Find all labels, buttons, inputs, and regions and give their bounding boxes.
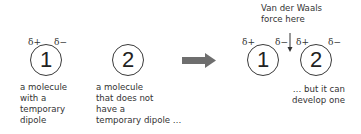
molecule-1-circle: 1 xyxy=(30,44,62,76)
molecule-1-caption: a molecule with a temporary dipole xyxy=(20,82,67,126)
delta-plus-label: δ+ xyxy=(242,37,255,47)
molecule-2-circle: 2 xyxy=(300,44,332,76)
delta-minus-label: δ− xyxy=(275,37,288,47)
van-der-waals-force-label: Van der Waals force here xyxy=(261,3,322,25)
molecule-2-circle: 2 xyxy=(112,44,144,76)
molecule-number: 2 xyxy=(310,47,322,73)
molecule-number: 2 xyxy=(122,47,134,73)
delta-minus-label: δ− xyxy=(328,37,341,47)
delta-minus-label: δ− xyxy=(54,37,67,47)
right-arrow-icon xyxy=(182,53,218,69)
molecule-1-circle: 1 xyxy=(247,44,279,76)
develop-caption: … but it can develop one xyxy=(292,84,345,106)
molecule-number: 1 xyxy=(257,47,269,73)
molecule-number: 1 xyxy=(40,47,52,73)
molecule-2-caption: a molecule that does not have a temporar… xyxy=(96,82,181,126)
